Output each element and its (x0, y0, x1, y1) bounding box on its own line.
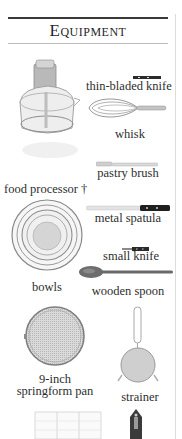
wooden-spoon-label: wooden spoon (88, 285, 168, 298)
strainer-image (116, 305, 160, 389)
bowls-label: bowls (22, 281, 72, 294)
whisk-label: whisk (110, 128, 150, 141)
pastry-brush-label: pastry brush (92, 167, 164, 180)
grater-image (34, 411, 102, 439)
section-title: Equipment (8, 19, 168, 43)
metal-spatula-label: metal spatula (92, 212, 164, 225)
page-divider (175, 14, 176, 439)
whisk-image (86, 97, 168, 123)
food-processor-label: food processor † (4, 183, 84, 196)
wooden-spoon-image (78, 264, 174, 283)
strainer-label: strainer (112, 391, 168, 404)
springform-pan-image (24, 305, 86, 371)
bowls-image (10, 198, 84, 276)
small-knife-label: small knife (98, 250, 164, 263)
food-processor-image (14, 58, 82, 167)
springform-pan-label-line2: springform pan (14, 385, 96, 398)
section-header: Equipment (8, 17, 168, 44)
piping-tip-image (128, 409, 144, 439)
thin-bladed-knife-label: thin-bladed knife (86, 80, 170, 93)
